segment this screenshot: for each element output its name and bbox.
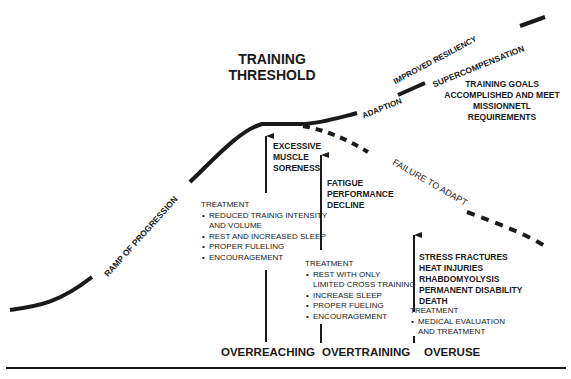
training-threshold-title: TRAINING THRESHOLD	[222, 51, 322, 83]
treatment-item: REDUCED TRAINIG INTENSITY	[201, 211, 327, 222]
treatment-header: TREATMENT	[201, 200, 327, 211]
treatment-item: ENCOURAGEMENT	[305, 312, 416, 323]
overreaching-symptoms: EXCESSIVE MUSCLE SORENESS	[273, 141, 321, 174]
goals-line-3: MISSIONNETL	[440, 101, 564, 112]
title-line-1: TRAINING	[222, 51, 322, 67]
treatment-header: TREATMENT	[305, 259, 416, 270]
stage-overuse: OVERUSE	[424, 346, 480, 358]
overreaching-treatment: TREATMENT REDUCED TRAINIG INTENSITY AND …	[201, 200, 327, 263]
stage-overreaching: OVERREACHING	[221, 346, 315, 358]
treatment-item: MEDICAL EVALUATION	[410, 317, 505, 328]
symptom-line: DECLINE	[327, 200, 394, 211]
adaption-line	[300, 113, 357, 124]
overtraining-treatment: TREATMENT REST WITH ONLY LIMITED CROSS T…	[305, 259, 416, 322]
symptom-line: FATIGUE	[327, 178, 394, 189]
failure-dashed-lower	[467, 212, 548, 248]
symptom-line: SORENESS	[273, 163, 321, 174]
adaption-to-supercomp-line	[398, 83, 425, 95]
treatment-item: REST WITH ONLY	[305, 270, 416, 281]
supercomp-end-line	[520, 17, 545, 26]
overuse-symptoms: STRESS FRACTURES HEAT INJURIES RHABDOMYO…	[419, 252, 522, 307]
symptom-line: RHABDOMYOLYSIS	[419, 274, 522, 285]
overuse-treatment: TREATMENT MEDICAL EVALUATION AND TREATME…	[410, 306, 505, 338]
treatment-item: REST AND INCREASED SLEEP	[201, 232, 327, 243]
goals-line-4: REQUIREMENTS	[440, 112, 564, 123]
treatment-item: PROPER FUELING	[305, 301, 416, 312]
treatment-item-continued: AND VOLUME	[201, 221, 327, 232]
goals-line-2: ACCOMPLISHED AND MEET	[440, 90, 564, 101]
treatment-item: PROPER FULELING	[201, 242, 327, 253]
treatment-header: TREATMENT	[410, 306, 505, 317]
treatment-item-continued: LIMITED CROSS TRAINING	[305, 280, 416, 291]
ramp-curve-lower	[10, 277, 92, 310]
overtraining-symptoms: FATIGUE PERFORMANCE DECLINE	[327, 178, 394, 211]
symptom-line: EXCESSIVE	[273, 141, 321, 152]
symptom-line: MUSCLE	[273, 152, 321, 163]
symptom-line: STRESS FRACTURES	[419, 252, 522, 263]
symptom-line: PERMANENT DISABILITY	[419, 285, 522, 296]
training-goals-text: TRAINING GOALS ACCOMPLISHED AND MEET MIS…	[440, 79, 564, 123]
symptom-line: PERFORMANCE	[327, 189, 394, 200]
stage-overtraining: OVERTRAINING	[322, 346, 410, 358]
symptom-line: HEAT INJURIES	[419, 263, 522, 274]
title-line-2: THRESHOLD	[222, 67, 322, 83]
treatment-item-continued: AND TREATMENT	[410, 327, 505, 338]
goals-line-1: TRAINING GOALS	[440, 79, 564, 90]
treatment-item: INCREASE SLEEP	[305, 291, 416, 302]
